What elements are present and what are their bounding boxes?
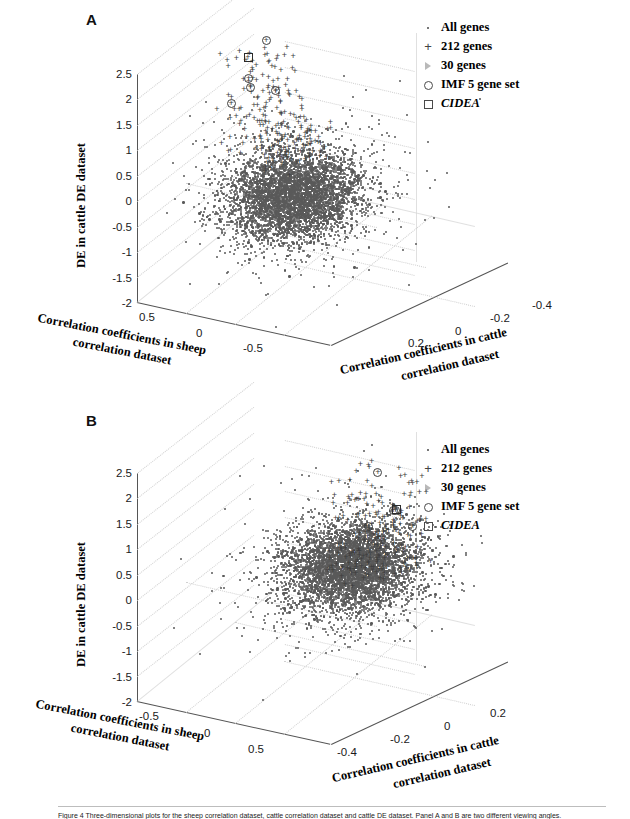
x-tick: 0.5 (248, 743, 264, 755)
legend-label: CIDEA (441, 518, 480, 533)
legend-label: 30 genes (441, 58, 486, 73)
legend-item-all-genes: All genes (415, 440, 519, 459)
legend-item-30-genes: 30 genes (415, 56, 519, 75)
legend-item-cidea: CIDEA (415, 516, 519, 535)
circle-marker-icon (415, 501, 441, 512)
plus-marker-icon: + (415, 40, 441, 53)
plus-marker-icon: + (415, 462, 441, 475)
z-tick: 2.5 (94, 467, 132, 479)
z-tick: -1.5 (94, 671, 132, 683)
circle-marker-icon (415, 79, 441, 90)
y-tick: -0.4 (337, 746, 357, 758)
x-tick: -0.5 (243, 342, 263, 354)
legend-label: IMF 5 gene set (441, 77, 519, 92)
z-tick: 1 (94, 543, 132, 555)
panel-b: B All genes + 212 genes 30 genes IMF 5 g… (0, 400, 630, 800)
legend-label: All genes (441, 442, 489, 457)
legend-panel-b: All genes + 212 genes 30 genes IMF 5 gen… (415, 440, 519, 535)
legend-label: 212 genes (441, 461, 492, 476)
z-tick: -0.5 (94, 620, 132, 632)
z-tick: 0 (94, 195, 132, 207)
dot-marker-icon (415, 444, 441, 455)
z-axis-title: DE in cattle DE dataset (74, 542, 90, 667)
z-tick: -1.5 (94, 272, 132, 284)
legend-item-212-genes: + 212 genes (415, 459, 519, 478)
z-tick: 0 (94, 594, 132, 606)
z-tick: -2 (94, 297, 132, 309)
panel-a: A All genes + 212 genes 30 genes IMF 5 g… (0, 0, 630, 400)
z-tick: 1 (94, 144, 132, 156)
y-tick: -0.4 (532, 299, 552, 311)
z-tick: 2 (94, 93, 132, 105)
z-axis-title: DE in cattle DE dataset (74, 143, 90, 268)
z-tick: 1.5 (94, 119, 132, 131)
legend-item-212-genes: + 212 genes (415, 37, 519, 56)
legend-label: 30 genes (441, 480, 486, 495)
x-tick: 0.5 (139, 311, 155, 323)
z-tick: 0.5 (94, 569, 132, 581)
y-tick: -0.2 (490, 312, 510, 324)
caption-rule (58, 806, 606, 807)
square-marker-icon (415, 98, 441, 109)
legend-item-30-genes: 30 genes (415, 478, 519, 497)
z-tick: -1 (94, 246, 132, 258)
z-tick: -2 (94, 696, 132, 708)
legend-item-cidea: CIDEA (415, 94, 519, 113)
z-tick: -1 (94, 645, 132, 657)
x-tick: 0 (196, 327, 202, 339)
z-tick: 0.5 (94, 170, 132, 182)
legend-item-all-genes: All genes (415, 18, 519, 37)
panel-b-label: B (86, 412, 97, 429)
z-tick: 2 (94, 492, 132, 504)
legend-label: 212 genes (441, 39, 492, 54)
legend-item-imf-5-gene-set: IMF 5 gene set (415, 75, 519, 94)
legend-label: All genes (441, 20, 489, 35)
legend-item-imf-5-gene-set: IMF 5 gene set (415, 497, 519, 516)
legend-panel-a: All genes + 212 genes 30 genes IMF 5 gen… (415, 18, 519, 113)
triangle-marker-icon (415, 482, 441, 493)
legend-label: IMF 5 gene set (441, 499, 519, 514)
y-tick: 0 (444, 720, 450, 732)
legend-label: CIDEA (441, 96, 480, 111)
z-tick: 2.5 (94, 68, 132, 80)
z-tick: 1.5 (94, 518, 132, 530)
square-marker-icon (415, 520, 441, 531)
z-tick: -0.5 (94, 221, 132, 233)
figure-caption: Figure 4 Three-dimensional plots for the… (58, 811, 603, 819)
y-tick: 0.2 (490, 707, 506, 719)
dot-marker-icon (415, 22, 441, 33)
panel-a-label: A (86, 11, 97, 28)
y-tick: -0.2 (390, 733, 410, 745)
triangle-marker-icon (415, 60, 441, 71)
